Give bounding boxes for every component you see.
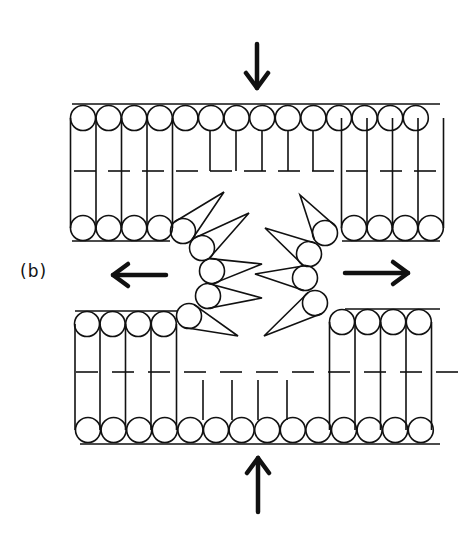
arrow-tension-right bbox=[345, 262, 408, 284]
arrow-tension-left bbox=[113, 264, 166, 286]
arrow-compress-down bbox=[246, 44, 268, 88]
bilayer-diagram bbox=[0, 0, 472, 534]
arrow-compress-up bbox=[247, 458, 269, 512]
